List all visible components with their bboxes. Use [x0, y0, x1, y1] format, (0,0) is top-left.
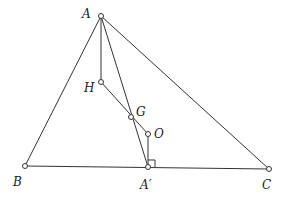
label-g: G: [136, 105, 146, 119]
segment-a-ap: [101, 16, 148, 167]
point-b: [23, 164, 28, 169]
label-c: C: [262, 178, 271, 192]
diagram-svg: ABCHGOA′: [0, 0, 293, 201]
point-ap: [146, 165, 151, 170]
point-g: [129, 115, 134, 120]
point-o: [146, 132, 151, 137]
label-h: H: [83, 81, 95, 95]
point-c: [267, 167, 272, 172]
label-ap: A′: [139, 178, 152, 192]
triangle-diagram: ABCHGOA′: [0, 0, 293, 201]
segments-group: [25, 16, 269, 169]
point-a: [99, 14, 104, 19]
labels-group: ABCHGOA′: [12, 7, 271, 192]
point-h: [99, 80, 104, 85]
label-a: A: [81, 7, 91, 21]
segment-a-c: [101, 16, 269, 169]
points-group: [23, 14, 272, 172]
label-b: B: [12, 175, 22, 189]
label-o: O: [154, 127, 164, 141]
